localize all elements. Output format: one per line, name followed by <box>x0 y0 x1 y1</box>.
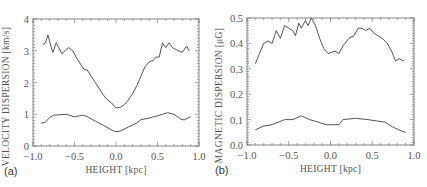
x-tick-label: 0.0 <box>109 151 122 162</box>
curve-lower <box>41 113 190 132</box>
y-tick-label: 3 <box>24 46 29 57</box>
panel-b-magnetic-dispersion: −1.0−0.50.00.51.00.00.10.20.30.40.5HEIGH… <box>213 0 427 187</box>
curve-lower <box>255 116 405 133</box>
y-tick-label: 0.3 <box>230 64 243 75</box>
x-tick-label: 0.5 <box>366 150 379 161</box>
y-axis-title: VELOCITY DISPERSION [km/s] <box>1 27 11 166</box>
y-tick-label: 0.5 <box>230 13 243 24</box>
plot-frame <box>247 18 414 145</box>
y-tick-label: 0.2 <box>230 89 243 100</box>
y-tick-label: 0 <box>24 141 29 152</box>
y-tick-label: 0.0 <box>230 140 243 151</box>
y-tick-label: 0.4 <box>230 38 244 49</box>
panel-a-velocity-dispersion: −1.0−0.50.00.51.001234HEIGHT [kpc]VELOCI… <box>0 0 214 187</box>
x-axis-title: HEIGHT [kpc] <box>85 165 146 175</box>
y-tick-label: 2 <box>24 78 29 89</box>
x-tick-label: 1.0 <box>407 150 420 161</box>
chart-a-svg: −1.0−0.50.00.51.001234HEIGHT [kpc]VELOCI… <box>0 0 214 187</box>
y-tick-label: 0.1 <box>230 115 243 126</box>
curve-upper <box>43 35 189 108</box>
y-tick-label: 4 <box>24 14 30 25</box>
x-tick-label: 0.5 <box>151 151 164 162</box>
x-axis-title: HEIGHT [kpc] <box>300 164 361 174</box>
plot-frame <box>33 19 199 146</box>
x-tick-label: 1.0 <box>192 151 205 162</box>
x-tick-label: −0.5 <box>65 151 84 162</box>
x-tick-label: −0.5 <box>279 150 298 161</box>
y-tick-label: 1 <box>24 109 29 120</box>
panel-label: (b) <box>215 164 228 176</box>
x-tick-label: −1.0 <box>23 151 42 162</box>
chart-b-svg: −1.0−0.50.00.51.00.00.10.20.30.40.5HEIGH… <box>213 0 427 187</box>
curve-upper <box>255 18 404 64</box>
x-tick-label: 0.0 <box>324 150 337 161</box>
panel-label: (a) <box>4 165 17 177</box>
y-axis-title: MAGNETIC DISPERSION [μG] <box>214 28 224 163</box>
x-tick-label: −1.0 <box>237 150 256 161</box>
